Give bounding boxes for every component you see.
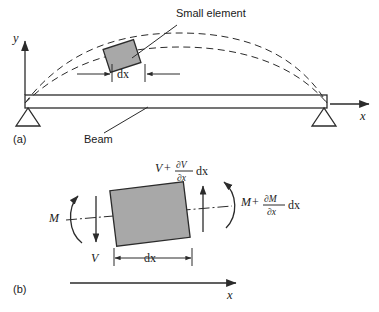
moment-left-label: M	[48, 211, 60, 225]
shear-right-expression: V + ∂V ∂x dx	[155, 160, 208, 183]
panel-b-label: (b)	[13, 283, 26, 295]
support-right	[312, 108, 336, 126]
small-element-label: Small element	[176, 7, 246, 19]
moment-right-denominator: ∂x	[267, 207, 277, 217]
beam-shear-moment-figure: y x Small element	[0, 0, 379, 312]
moment-right-numerator: ∂M	[264, 194, 278, 204]
svg-text:+: +	[252, 195, 259, 209]
deflection-curve-upper	[25, 33, 327, 103]
svg-text:V: V	[155, 161, 164, 175]
shear-right-numerator: ∂V	[176, 160, 188, 170]
shear-right-denominator: ∂x	[177, 173, 187, 183]
dx-label-b: dx	[144, 251, 156, 265]
svg-text:+: +	[164, 161, 171, 175]
beam-label: Beam	[84, 133, 113, 145]
moment-right-expression: M + ∂M ∂x dx	[240, 194, 300, 217]
deflection-curves	[25, 33, 327, 103]
support-left	[16, 108, 40, 126]
x-axis-label-b: x	[226, 288, 233, 302]
moment-right-arc	[224, 182, 235, 228]
panel-b: V M V + ∂V ∂x dx M + ∂M ∂x	[13, 160, 300, 302]
moment-right-differential: dx	[288, 198, 300, 212]
small-element-leader	[132, 25, 177, 58]
y-axis-label: y	[11, 31, 19, 45]
dx-label-a: dx	[117, 67, 129, 81]
differential-element-shape	[110, 182, 190, 247]
x-axis-label-a: x	[359, 109, 366, 123]
panel-a: y x Small element	[11, 7, 369, 145]
beam-leader	[104, 107, 148, 133]
shear-right-differential: dx	[196, 164, 208, 178]
shear-left-label: V	[91, 251, 100, 265]
svg-text:M: M	[240, 195, 252, 209]
panel-a-label: (a)	[13, 133, 26, 145]
beam-body	[25, 95, 327, 108]
